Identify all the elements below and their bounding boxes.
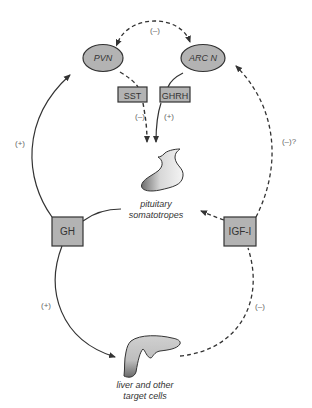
igf1-label: IGF-I — [229, 226, 252, 237]
edge-arcn-ghrh — [168, 73, 183, 87]
edge-gh-pvn: (+) — [15, 75, 70, 217]
arcn-label: ARC N — [188, 53, 218, 63]
edge-igf1-pituitary — [201, 211, 224, 220]
edge-sst-pituitary: (–) — [135, 103, 147, 142]
sst-label: SST — [124, 91, 142, 101]
sign-gh-pvn: (+) — [15, 139, 25, 148]
liver-icon — [124, 336, 180, 377]
edge-pvn-arcn: (–) — [118, 21, 190, 42]
node-pituitary: pituitary somatotropes — [129, 149, 184, 220]
edge-pituitary-gh — [83, 209, 121, 221]
node-arcn: ARC N — [181, 45, 225, 72]
edge-gh-liver: (+) — [41, 246, 115, 357]
ghrh-label: GHRH — [162, 91, 189, 101]
node-pvn: PVN — [83, 45, 123, 72]
pituitary-label-line1: pituitary — [139, 199, 172, 209]
pituitary-label-line2: somatotropes — [129, 210, 184, 220]
liver-label-line1: liver and other — [116, 380, 174, 390]
gh-label: GH — [60, 226, 75, 237]
liver-label-line2: target cells — [123, 391, 167, 401]
sign-pvn-arcn: (–) — [150, 26, 160, 35]
node-igf1: IGF-I — [224, 217, 256, 246]
node-gh: GH — [52, 217, 83, 246]
edge-ghrh-pituitary: (+) — [156, 103, 174, 142]
sign-sst: (–) — [135, 112, 145, 121]
edge-pvn-sst — [120, 72, 138, 87]
sign-gh-liver: (+) — [41, 301, 51, 310]
sign-ghrh: (+) — [164, 112, 174, 121]
node-sst: SST — [118, 87, 147, 102]
pituitary-icon — [142, 149, 184, 191]
sign-igf1-arcn: (–)? — [282, 137, 297, 146]
node-ghrh: GHRH — [160, 87, 190, 102]
pvn-label: PVN — [94, 53, 113, 63]
edge-liver-igf1: (–) — [180, 248, 265, 356]
gh-regulation-diagram: (–) PVN ARC N SST GHRH (–) (+) pituitary… — [0, 0, 312, 408]
sign-liver-igf1: (–) — [255, 302, 265, 311]
node-liver: liver and other target cells — [116, 336, 180, 401]
edge-igf1-arcn: (–)? — [236, 66, 297, 217]
